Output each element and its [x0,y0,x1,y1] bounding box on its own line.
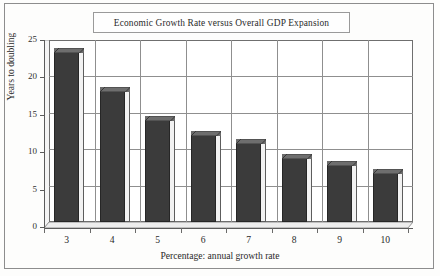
gridline-vertical [95,40,96,222]
bar[interactable] [373,173,398,223]
bar[interactable] [54,52,79,222]
x-axis-tick [90,228,91,233]
bar-front-face [282,158,307,222]
bar-front-face [54,52,79,222]
x-axis-tick [408,228,409,233]
y-axis-title: Years to doubling [5,33,16,101]
x-axis-tick-label: 6 [188,234,218,245]
x-axis-tick-label: 10 [370,234,400,245]
y-axis-tick: 20 [40,77,45,78]
bar[interactable] [282,158,307,222]
bar-top-face [373,169,403,174]
x-axis-tick-label: 4 [97,234,127,245]
x-axis-tick [44,228,45,233]
x-axis-tick [181,228,182,233]
gridline-vertical [322,40,323,222]
y-axis-tick: 10 [40,152,45,153]
x-axis-tick-label: 9 [325,234,355,245]
bar[interactable] [100,91,125,222]
bar-top-face [100,87,130,92]
bar-side-face [352,165,357,222]
bar-top-face [191,131,221,136]
bar-top-face [236,139,266,144]
bar[interactable] [236,143,261,222]
bar-front-face [145,120,170,222]
x-axis-tick [272,228,273,233]
bar-top-face [282,154,312,159]
bar-side-face [79,52,84,222]
x-axis-tick [363,228,364,233]
y-axis-tick: 5 [40,190,45,191]
bar[interactable] [327,165,352,222]
chart-title: Economic Growth Rate versus Overall GDP … [114,18,329,28]
x-axis-line [44,228,413,229]
plot-area: 0510152025 345678910 [44,40,413,228]
gridline-vertical [368,40,369,222]
x-axis-tick-label: 3 [52,234,82,245]
bar-top-face [145,116,175,121]
gridline-vertical [231,40,232,222]
bar-top-face [327,161,357,166]
bar[interactable] [191,135,216,222]
y-axis-tick: 25 [40,40,45,41]
y-axis-line [44,40,45,228]
y-axis-tick-label: 20 [28,71,37,81]
bar-front-face [373,173,398,223]
bar-top-face [54,48,84,53]
x-axis-title: Percentage: annual growth rate [0,250,440,261]
gridline-vertical [140,40,141,222]
x-axis-tick [226,228,227,233]
bar-side-face [125,91,130,222]
x-axis-tick [317,228,318,233]
y-axis-tick-label: 10 [28,146,37,156]
chart-title-box: Economic Growth Rate versus Overall GDP … [93,12,350,33]
x-axis-tick-label: 8 [279,234,309,245]
y-axis-tick-label: 15 [28,109,37,119]
y-axis-tick-label: 25 [28,34,37,44]
gridline-vertical [186,40,187,222]
y-axis-tick-label: 5 [33,184,38,194]
bar-front-face [327,165,352,222]
bar-side-face [398,173,403,223]
chart-page: Economic Growth Rate versus Overall GDP … [0,0,440,276]
bar[interactable] [145,120,170,222]
x-axis-tick [135,228,136,233]
y-axis-tick: 15 [40,115,45,116]
bar-side-face [261,143,266,222]
bar-front-face [191,135,216,222]
x-axis-tick-label: 5 [143,234,173,245]
x-axis-tick-label: 7 [234,234,264,245]
y-axis-tick-label: 0 [33,221,38,231]
bar-front-face [236,143,261,222]
bar-side-face [216,135,221,222]
bar-side-face [170,120,175,222]
gridline-vertical [277,40,278,222]
bar-front-face [100,91,125,222]
bar-side-face [307,158,312,222]
